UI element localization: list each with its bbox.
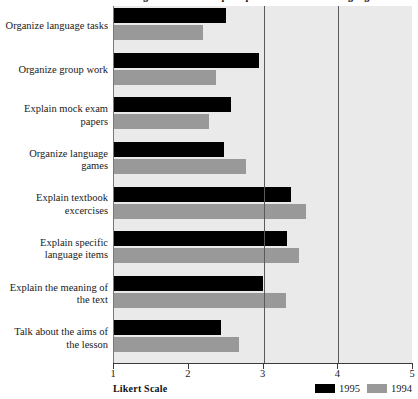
legend: 19951994 bbox=[315, 383, 412, 394]
category-label: Explain the meaning of the text bbox=[0, 282, 108, 307]
bar-1995 bbox=[114, 187, 291, 202]
x-tick-label: 2 bbox=[176, 368, 200, 379]
gridline-3 bbox=[264, 6, 265, 363]
bar-1994 bbox=[114, 204, 306, 219]
bar-1995 bbox=[114, 142, 224, 157]
bar-1995 bbox=[114, 231, 287, 246]
x-tick-label: 4 bbox=[325, 368, 349, 379]
category-label: Organize group work bbox=[0, 64, 108, 77]
bar-1994 bbox=[114, 248, 299, 263]
bar-1995 bbox=[114, 53, 259, 68]
x-tick-label: 3 bbox=[251, 368, 275, 379]
category-label: Explain mock exam papers bbox=[0, 103, 108, 128]
bar-1994 bbox=[114, 114, 209, 129]
legend-swatch-1994 bbox=[367, 384, 387, 393]
x-tick-label: 5 bbox=[400, 368, 418, 379]
legend-label-1995: 1995 bbox=[339, 383, 360, 394]
category-label: Organize language tasks bbox=[0, 20, 108, 33]
chart-title: Figure 1. Teachers' perceptions of class… bbox=[113, 0, 412, 2]
legend-swatch-1995 bbox=[315, 384, 335, 393]
x-axis-title: Likert Scale bbox=[113, 383, 167, 394]
bar-1994 bbox=[114, 70, 216, 85]
legend-label-1994: 1994 bbox=[391, 383, 412, 394]
category-labels: Organize language tasksOrganize group wo… bbox=[0, 6, 108, 363]
bar-1994 bbox=[114, 337, 239, 352]
x-tick-label: 1 bbox=[101, 368, 125, 379]
legend-item-1994: 1994 bbox=[367, 383, 412, 394]
bar-chart: Figure 1. Teachers' perceptions of class… bbox=[0, 0, 418, 399]
bar-1994 bbox=[114, 25, 203, 40]
bar-1995 bbox=[114, 8, 226, 23]
bar-1994 bbox=[114, 159, 246, 174]
category-label: Explain textbook excercises bbox=[0, 192, 108, 217]
category-label: Organize language games bbox=[0, 148, 108, 173]
bar-1995 bbox=[114, 276, 263, 291]
plot-area bbox=[113, 6, 412, 363]
bar-1995 bbox=[114, 97, 231, 112]
legend-item-1995: 1995 bbox=[315, 383, 360, 394]
gridline-4 bbox=[338, 6, 339, 363]
category-label: Talk about the aims of the lesson bbox=[0, 326, 108, 351]
bar-1995 bbox=[114, 320, 221, 335]
bar-1994 bbox=[114, 293, 286, 308]
category-label: Explain specific language items bbox=[0, 237, 108, 262]
